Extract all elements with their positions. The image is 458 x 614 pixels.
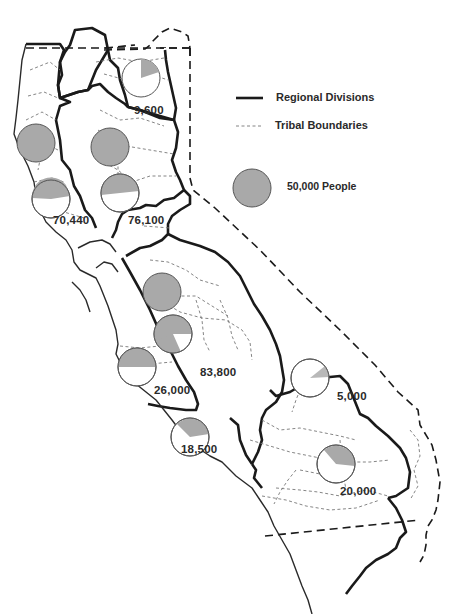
pie-san-joaquin-partial	[154, 315, 192, 353]
legend-scale-circle-icon	[233, 169, 271, 207]
region-label-southern-desert: 20,000	[340, 485, 376, 497]
pie-sacramento-full	[91, 128, 129, 166]
pie-sacramento-partial	[101, 174, 139, 212]
region-label-sacramento-valley: 76,100	[128, 214, 164, 226]
region-label-south-coast: 18,500	[181, 443, 217, 455]
pie-central-coast	[118, 348, 156, 386]
region-label-northwest: 70,440	[53, 214, 89, 226]
legend-tribal-boundaries-label: Tribal Boundaries	[275, 119, 368, 131]
legend	[233, 98, 271, 207]
pie-northwest-partial	[32, 178, 70, 218]
region-label-san-joaquin-valley: 83,800	[200, 366, 236, 378]
pie-southern-desert	[317, 445, 355, 483]
region-label-great-basin: 5,000	[337, 390, 367, 402]
regional-divisions	[26, 28, 410, 594]
state-border-dashed	[26, 28, 440, 562]
california-map	[0, 0, 458, 614]
pie-great-basin	[291, 359, 329, 397]
pie-san-joaquin-full	[143, 273, 181, 311]
pie-northeast	[122, 59, 160, 97]
pie-northwest-full	[17, 124, 55, 162]
legend-scale-label: 50,000 People	[287, 180, 356, 192]
legend-regional-divisions-label: Regional Divisions	[276, 91, 374, 103]
region-label-central-coast: 26,000	[154, 384, 190, 396]
region-label-northeast: 9,600	[134, 104, 164, 116]
